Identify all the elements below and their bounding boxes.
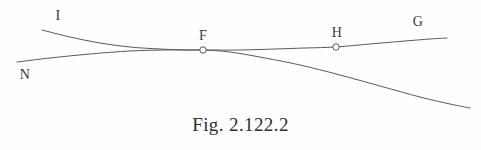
figure-caption: Fig. 2.122.2 (0, 114, 481, 136)
point-label-i: I (56, 9, 61, 23)
curves-group (17, 30, 470, 108)
curve-n-to-g (17, 38, 447, 62)
point-label-g: G (413, 15, 423, 29)
point-label-h: H (332, 26, 342, 40)
figure-container: I N F H G Fig. 2.122.2 (0, 0, 481, 150)
point-marker-f (200, 47, 206, 53)
point-marker-h (333, 44, 339, 50)
point-label-n: N (20, 68, 30, 82)
point-markers-group (200, 44, 339, 53)
curve-i-descending (42, 30, 470, 108)
point-label-f: F (199, 29, 207, 43)
